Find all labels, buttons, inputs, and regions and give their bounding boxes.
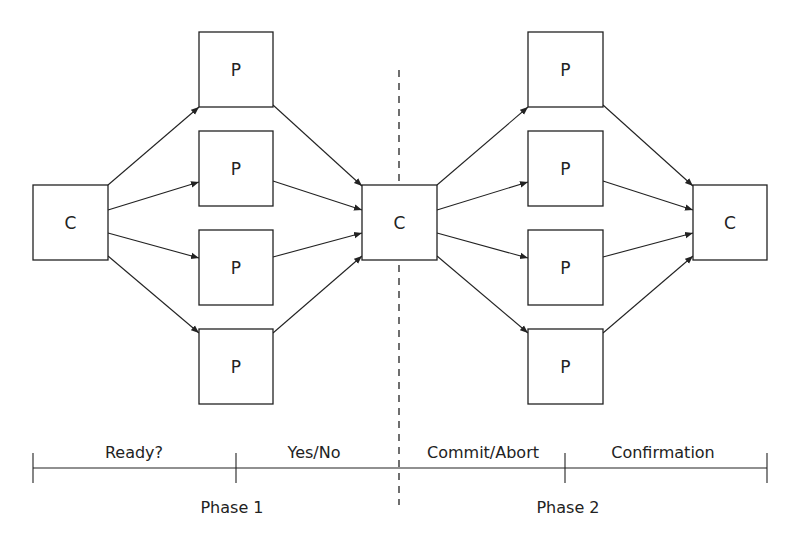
participant-node-p1c: P [199, 230, 273, 305]
timeline-segment-label: Ready? [105, 443, 163, 462]
arrow-p1a-to-c2 [273, 105, 362, 186]
participant-label: P [231, 357, 241, 377]
two-phase-commit-diagram: CPPPPCPPPPC Ready?Yes/NoCommit/AbortConf… [0, 0, 795, 545]
arrow-p2c-to-c3 [603, 233, 693, 257]
participant-label: P [560, 258, 570, 278]
participant-node-p2d: P [528, 329, 603, 404]
participant-node-p1d: P [199, 329, 273, 404]
arrow-p2b-to-c3 [603, 181, 693, 210]
phase-label: Phase 2 [536, 498, 599, 517]
participant-label: P [560, 357, 570, 377]
participant-node-p2a: P [528, 32, 603, 107]
arrow-p1d-to-c2 [273, 256, 362, 333]
participant-node-p2b: P [528, 131, 603, 206]
arrow-p2a-to-c3 [603, 105, 693, 186]
coordinator-label: C [394, 213, 406, 233]
participant-node-p2c: P [528, 230, 603, 305]
arrow-c2-to-p2d [437, 256, 528, 333]
participant-label: P [231, 60, 241, 80]
participant-label: P [231, 159, 241, 179]
arrow-c1-to-p1d [108, 256, 199, 333]
timeline: Ready?Yes/NoCommit/AbortConfirmationPhas… [33, 443, 767, 517]
participant-label: P [560, 60, 570, 80]
arrow-c2-to-p2b [437, 182, 528, 210]
phase-label: Phase 1 [200, 498, 263, 517]
nodes: CPPPPCPPPPC [33, 32, 767, 404]
arrow-c2-to-p2c [437, 233, 528, 258]
participant-node-p1b: P [199, 131, 273, 206]
participant-label: P [560, 159, 570, 179]
coordinator-node-c3: C [693, 185, 767, 260]
coordinator-node-c2: C [362, 185, 437, 260]
timeline-segment-label: Commit/Abort [427, 443, 539, 462]
coordinator-label: C [724, 213, 736, 233]
coordinator-label: C [65, 213, 77, 233]
participant-node-p1a: P [199, 32, 273, 107]
arrow-p2d-to-c3 [603, 256, 693, 333]
arrow-p1b-to-c2 [273, 181, 362, 210]
timeline-segment-label: Yes/No [287, 443, 341, 462]
arrow-c2-to-p2a [437, 107, 528, 185]
arrow-c1-to-p1c [108, 233, 199, 258]
arrow-c1-to-p1b [108, 182, 199, 210]
arrow-c1-to-p1a [108, 107, 199, 185]
timeline-segment-label: Confirmation [611, 443, 715, 462]
participant-label: P [231, 258, 241, 278]
arrow-p1c-to-c2 [273, 233, 362, 257]
coordinator-node-c1: C [33, 185, 108, 260]
